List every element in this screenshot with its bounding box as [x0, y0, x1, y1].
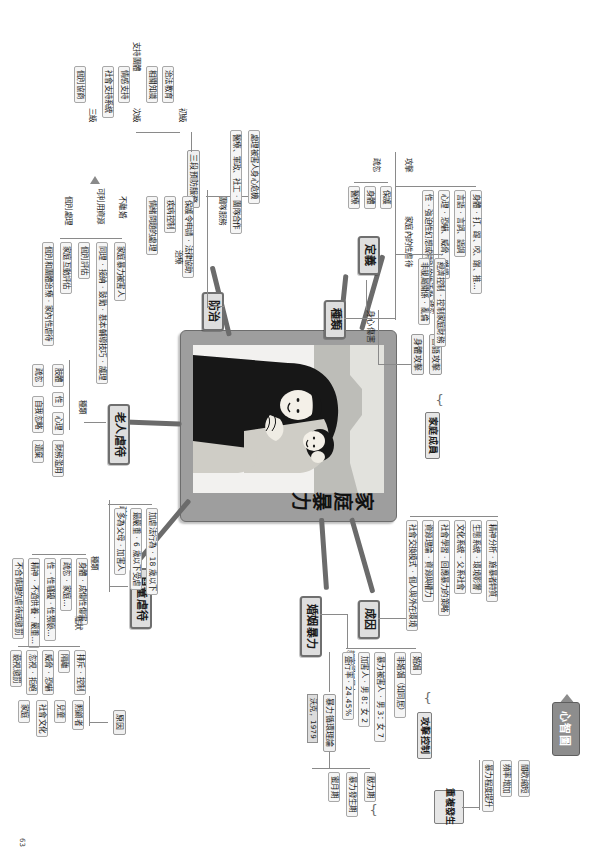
marital-stat-0[interactable]: 暴力被害人 ‧ 男 3：女 7 [374, 652, 386, 742]
marital-outcome-0[interactable]: 間歇縮短 [518, 760, 530, 797]
trunk-causes [349, 517, 375, 593]
child-reason-1[interactable]: 兒童 [54, 700, 66, 723]
prevention-level-0-item-0[interactable]: 治法教育 [162, 66, 174, 103]
types-group-1-item-1[interactable]: 非親屬關係 ‧ 亂倫 [418, 258, 430, 325]
marital-theory-phase-2[interactable]: 蜜月期 [328, 772, 340, 802]
elder-item-3[interactable]: 財務濫用 [52, 440, 64, 477]
connector [191, 132, 192, 152]
types-group-0-item-0[interactable]: 身體 ‧ 打、踢、咬、踹、推… [470, 190, 482, 294]
branch-causes[interactable]: 成因 [358, 600, 380, 639]
elder-item-1[interactable]: 性 [52, 392, 64, 407]
connector [18, 646, 80, 647]
connector [320, 614, 348, 615]
causes-item-1[interactable]: 生態系統 ‧ 環境影響 [470, 520, 482, 594]
elder-item-5[interactable]: 自我忽略 [32, 396, 44, 433]
arrow-left-icon [90, 176, 100, 184]
connector [109, 500, 110, 592]
causes-item-3[interactable]: 社會學習 ‧ 回應暴力的策略 [438, 520, 450, 616]
prevention-node-3[interactable]: 疾病控制 [164, 196, 176, 233]
connector [344, 318, 396, 319]
types-group-2-item-0[interactable]: 保護 [380, 186, 392, 209]
branch-elder-abuse[interactable]: 老人虐待 [108, 404, 130, 465]
branch-prevention[interactable]: 防治 [202, 292, 224, 331]
child-symptom-2[interactable]: 威脅 ‧ 恐嚇 [42, 650, 54, 695]
types-group-0-label: 攻擊 [404, 158, 412, 173]
child-type-2[interactable]: 性 ‧ 性騷擾 ‧ 性猥褻… [44, 558, 56, 641]
branch-definition[interactable]: 定義 [358, 236, 380, 275]
marital-relation-0[interactable]: 婚姻 [410, 652, 422, 675]
types-group-1-label: 家庭內的性虐待 [404, 216, 412, 267]
definition-target[interactable]: 家庭成員 [425, 412, 440, 459]
causes-item-4[interactable]: 資源理論 ‧ 資源與權力 [422, 520, 434, 602]
child-definition-item-1[interactable]: 最嚴重 ‧ 6 歲以下受虐 [130, 508, 142, 590]
causes-item-2[interactable]: 文化系統 ‧ 父系社會 [454, 520, 466, 594]
prevention-level-1-item-0[interactable]: 情感支持 [118, 66, 130, 103]
child-reasons-label[interactable]: 原因 [113, 710, 126, 735]
connector [90, 722, 108, 723]
child-symptom-1[interactable]: 隔離 [58, 650, 70, 673]
connector [329, 652, 330, 692]
child-type-1[interactable]: 疏忽 ‧ 家庭… [60, 558, 72, 611]
connector [410, 516, 498, 517]
prevention-node-2[interactable]: 保護令申請 ‧ 法律協助 [182, 196, 194, 278]
marital-theory-phase-0[interactable]: 壓力期 [364, 772, 376, 802]
marital-outcome-1[interactable]: 頻率增加 [500, 760, 512, 797]
marital-theory-citation: 沃克，1979 [307, 694, 318, 743]
child-definition-item-2[interactable]: 多為父母 ‧ 加害人 [114, 508, 126, 575]
marital-relation-1[interactable]: 非婚姻（如同居） [394, 652, 406, 718]
child-symptom-0[interactable]: 排斥 ‧ 控制 [74, 650, 86, 695]
causes-item-0[interactable]: 精神分析 ‧ 施暴者特質 [486, 520, 498, 602]
prevention-node-0-detail[interactable]: 處理被害人身心危機 [248, 130, 260, 204]
child-reason-2[interactable]: 社會文化 [36, 700, 48, 737]
types-group-1-item-0[interactable]: 經濟控制 ‧ 控制家庭財務 [434, 258, 446, 347]
prevention-level-1-item-1[interactable]: 社會支持系統 [102, 66, 114, 118]
prevention-resource-handle-2[interactable]: 家庭互動評估 [60, 242, 72, 294]
child-reason-0[interactable]: 照顧者 [72, 700, 84, 730]
types-group-2-item-1[interactable]: 身體 [364, 186, 376, 209]
prevention-resource-handle-0[interactable]: 同理 ‧ 接納 ‧ 鼓勵 ‧ 基本輔導技巧 ‧ 護理 [96, 242, 108, 384]
causes-item-5[interactable]: 社會交換模式 ‧ 個人與外在環境 [406, 520, 418, 631]
prevention-level-0-item-1[interactable]: 相關知識 [146, 66, 158, 103]
prevention-node-3-label[interactable]: 情緒問題的處理 [146, 196, 158, 255]
definition-child: 身心傷害 [366, 310, 374, 343]
center-topic-card[interactable]: 家庭暴力 [180, 330, 397, 522]
definition-item-0[interactable]: 身體攻擊 [411, 334, 424, 375]
prevention-resource-handle-1[interactable]: 個別評估 [78, 242, 90, 279]
connector [329, 752, 330, 768]
marital-stat-1[interactable]: 加害人 ‧ 男 8：女 2 [358, 652, 370, 727]
marital-attack-label[interactable]: 攻擊控制 [417, 712, 432, 759]
branch-marital-violence[interactable]: 婚姻暴力 [300, 596, 322, 657]
marital-theory-phase-1[interactable]: 暴力發生期 [346, 772, 358, 817]
branch-types[interactable]: 種類 [324, 300, 346, 339]
child-symptom-4[interactable]: 藐視懲罰 [10, 650, 22, 687]
prevention-node-0-members[interactable]: 醫療、軍政、社工 ‧ 團隊合作 [230, 130, 242, 234]
prevention-support-label: 支持團體 [132, 42, 140, 71]
child-type-3[interactable]: 精神 ‧ 不適供養 ‧ 嚴重… [28, 558, 40, 648]
mindmap-logo: 心智圖 [552, 702, 580, 756]
elder-item-4[interactable]: 疏忽 [32, 364, 44, 387]
prevention-resource-item-0[interactable]: 家庭暴力被害人 [114, 242, 126, 301]
marital-stat-2[interactable]: 盛行率 ‧ 24.45% [342, 652, 354, 720]
child-definition-item-0[interactable]: 加虐法行為 ‧ 18 歲以下 [146, 508, 158, 595]
elder-item-2[interactable]: 心理 [52, 412, 64, 435]
child-reason-3[interactable]: 家庭 [18, 700, 30, 723]
elder-item-0[interactable]: 肢體 [52, 364, 64, 387]
elder-item-6[interactable]: 遺棄 [32, 440, 44, 463]
connector [346, 648, 416, 649]
types-group-2-item-2[interactable]: 醫療 [348, 186, 360, 209]
poster-page: 心智圖 63 [0, 0, 592, 857]
marital-theory-outcome-label[interactable]: 重複發生 [434, 790, 464, 824]
marital-outcome-2[interactable]: 暴力程度提升 [482, 760, 494, 812]
trunk-child [136, 498, 191, 562]
prevention-resource-handle-3[interactable]: 個別和團體治療 ‧ 家內性虐待 [42, 242, 54, 346]
prevention-node-0-label: 團隊服務 [218, 196, 226, 225]
marital-theory-name[interactable]: 暴力循環理論 [323, 694, 336, 752]
connector [347, 614, 348, 648]
outcome-text: 重複發生 [444, 788, 453, 825]
child-symptom-3[interactable]: 忽視 ‧ 拒絕 [26, 650, 38, 695]
prevention-level-2-item-0[interactable]: 個別協商 [74, 66, 86, 103]
types-group-0-item-1[interactable]: 言語 ‧ 言詞、語調 [454, 190, 466, 257]
child-types-label: 種類 [90, 556, 98, 571]
connector [396, 254, 442, 255]
child-type-4[interactable]: 不合情理的虐待或懲罰 [12, 558, 24, 639]
